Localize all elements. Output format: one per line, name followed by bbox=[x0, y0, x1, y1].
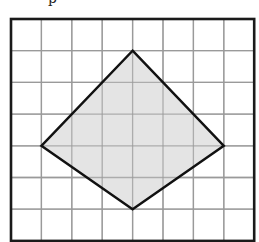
grid-diagram bbox=[0, 0, 259, 242]
